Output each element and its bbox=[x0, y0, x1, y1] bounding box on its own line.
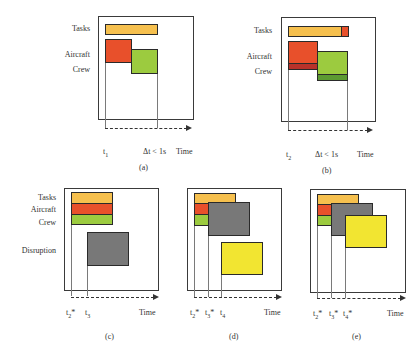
time-marker-line bbox=[221, 274, 222, 297]
axis-label-time: Time bbox=[387, 310, 404, 318]
tick-label-t4-star: t4* bbox=[343, 310, 352, 320]
aircraft-block bbox=[288, 41, 318, 64]
axis-label-time: Time bbox=[139, 309, 156, 317]
crew-block bbox=[71, 214, 113, 225]
time-marker-line bbox=[87, 265, 88, 296]
time-marker-line bbox=[157, 73, 158, 128]
time-marker-line bbox=[194, 225, 195, 297]
tasks-block bbox=[105, 24, 158, 35]
tick-label-t3: t3 bbox=[85, 309, 90, 319]
panel-caption: (e) bbox=[352, 333, 361, 341]
new-event-block bbox=[345, 215, 387, 248]
arrow-head-icon bbox=[367, 127, 373, 133]
time-marker-line bbox=[317, 226, 318, 298]
time-marker-line bbox=[288, 70, 289, 130]
panel-caption: (a) bbox=[139, 164, 148, 172]
time-marker-line bbox=[331, 235, 332, 298]
row-label-crew: Crew bbox=[4, 219, 56, 227]
time-axis-arrow bbox=[105, 128, 187, 129]
row-label-crew: Crew bbox=[40, 66, 90, 74]
tick-label-t1: t1 bbox=[103, 148, 108, 158]
time-marker-line bbox=[208, 235, 209, 297]
time-marker-line bbox=[71, 224, 72, 296]
row-label-tasks: Tasks bbox=[40, 25, 90, 33]
panel-caption: (d) bbox=[229, 333, 238, 341]
crew-delay-band bbox=[317, 74, 348, 81]
arrow-head-icon bbox=[186, 125, 192, 131]
disruption-block bbox=[208, 202, 250, 236]
time-axis-arrow bbox=[71, 297, 154, 298]
tick-label-t2-star: t2* bbox=[190, 309, 199, 319]
panel-caption: (b) bbox=[322, 167, 331, 175]
tick-label-t3-star: t3* bbox=[205, 309, 214, 319]
time-axis-arrow bbox=[288, 130, 368, 131]
row-label-aircraft: Aircraft bbox=[4, 206, 56, 214]
arrow-head-icon bbox=[400, 295, 406, 301]
tasks-overrun-block bbox=[341, 26, 349, 37]
new-event-block bbox=[221, 242, 263, 275]
row-label-aircraft: Aircraft bbox=[40, 51, 90, 59]
disruption-block bbox=[87, 232, 129, 266]
tick-label-delta: Δt < 1s bbox=[143, 148, 166, 156]
time-marker-line bbox=[105, 62, 106, 128]
row-label-aircraft: Aircraft bbox=[222, 53, 272, 61]
row-label-tasks: Tasks bbox=[4, 194, 56, 202]
time-marker-line bbox=[345, 247, 346, 298]
axis-label-time: Time bbox=[357, 151, 374, 159]
aircraft-delay-band bbox=[288, 63, 318, 70]
row-label-tasks: Tasks bbox=[222, 27, 272, 35]
tick-label-t2: t2 bbox=[286, 151, 291, 161]
arrow-head-icon bbox=[153, 294, 159, 300]
tick-label-t4: t4 bbox=[220, 309, 225, 319]
tasks-block bbox=[288, 26, 342, 37]
arrow-head-icon bbox=[276, 294, 282, 300]
time-axis-arrow bbox=[194, 297, 277, 298]
crew-block bbox=[317, 51, 348, 75]
aircraft-block bbox=[105, 39, 132, 63]
axis-label-time: Time bbox=[176, 148, 193, 156]
time-marker-line bbox=[347, 80, 348, 130]
panel-caption: (c) bbox=[105, 333, 114, 341]
axis-label-time: Time bbox=[264, 309, 281, 317]
tick-label-t2-star: t2* bbox=[66, 309, 75, 319]
time-axis-arrow bbox=[317, 298, 401, 299]
tick-label-t2-star: t2* bbox=[313, 310, 322, 320]
crew-block bbox=[131, 49, 158, 74]
row-label-disruption: Disruption bbox=[4, 247, 56, 255]
tick-label-t3-star: t3* bbox=[329, 310, 338, 320]
row-label-crew: Crew bbox=[222, 68, 272, 76]
tick-label-delta: Δt < 1s bbox=[315, 151, 338, 159]
